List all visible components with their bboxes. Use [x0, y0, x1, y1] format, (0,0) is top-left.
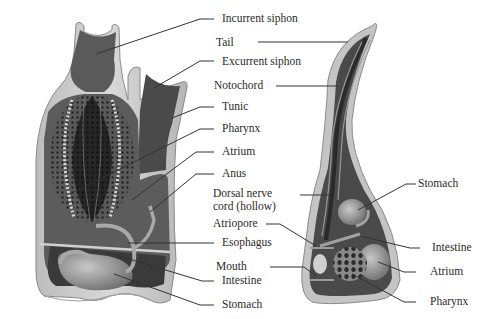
label-pharynx-larva: Pharynx: [430, 295, 468, 308]
tunicate-larva: [302, 24, 400, 304]
label-tail: Tail: [216, 36, 234, 49]
label-notochord: Notochord: [214, 79, 263, 92]
label-incurrent-siphon: Incurrent siphon: [222, 12, 298, 25]
label-anus: Anus: [222, 167, 246, 180]
label-stomach-larva: Stomach: [418, 177, 458, 190]
label-mouth: Mouth: [216, 260, 247, 273]
label-stomach-adult: Stomach: [222, 298, 262, 311]
label-excurrent-siphon: Excurrent siphon: [222, 55, 301, 68]
label-intestine-adult: Intestine: [222, 274, 262, 287]
label-dorsal-nerve-cord-line1: Dorsal nerve: [213, 187, 272, 200]
label-pharynx-adult: Pharynx: [222, 122, 260, 135]
label-intestine-larva: Intestine: [432, 241, 472, 254]
label-atrium-adult: Atrium: [222, 145, 255, 158]
label-atrium-larva: Atrium: [430, 265, 463, 278]
larva-pharynx: [333, 247, 367, 281]
larva-mouth: [313, 254, 327, 274]
adult-tunicate: [36, 22, 187, 303]
label-atriopore: Atriopore: [213, 217, 258, 230]
label-esophagus: Esophagus: [222, 236, 272, 249]
larva-stomach: [338, 199, 366, 225]
label-dorsal-nerve-cord-line2: cord (hollow): [213, 200, 276, 213]
label-tunic: Tunic: [222, 100, 248, 113]
